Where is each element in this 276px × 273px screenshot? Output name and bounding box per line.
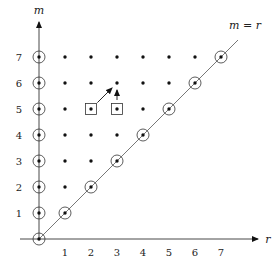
lattice-point [37,185,40,188]
lattice-point [37,107,40,110]
lattice-point [115,81,118,84]
y-axis-label: m [34,4,44,17]
lattice-point [37,159,40,162]
x-tick-label: 5 [166,247,172,258]
lattice-point [193,81,196,84]
lattice-point [115,107,118,110]
lattice-diagram: 12345671234567mrm = r [0,0,276,273]
lattice-point [167,55,170,58]
transition-arrow [97,88,112,103]
y-tick-label: 7 [16,52,22,63]
lattice-point [89,159,92,162]
lattice-point [37,133,40,136]
y-tick-label: 1 [16,208,22,219]
lattice-point [63,55,66,58]
lattice-point [193,55,196,58]
lattice-point [89,185,92,188]
lattice-point [115,133,118,136]
diagonal-label: m = r [229,19,262,32]
x-tick-label: 6 [192,247,198,258]
lattice-point [219,55,222,58]
lattice-point [115,55,118,58]
y-tick-label: 5 [16,104,22,115]
lattice-point [115,159,118,162]
lattice-point [37,237,40,240]
x-axis-label: r [265,233,271,246]
lattice-point [63,211,66,214]
lattice-point [89,81,92,84]
lattice-point [141,55,144,58]
x-tick-label: 7 [218,247,224,258]
lattice-point [89,133,92,136]
x-tick-label: 2 [88,247,94,258]
y-tick-label: 4 [16,130,22,141]
lattice-point [37,55,40,58]
lattice-point [37,211,40,214]
lattice-point [167,107,170,110]
y-tick-label: 6 [16,78,22,89]
y-tick-label: 2 [16,182,22,193]
lattice-point [63,185,66,188]
lattice-point [167,81,170,84]
lattice-point [89,55,92,58]
lattice-point [63,133,66,136]
lattice-point [63,107,66,110]
lattice-point [63,159,66,162]
y-tick-label: 3 [16,156,22,167]
x-tick-label: 1 [62,247,68,258]
x-tick-label: 3 [114,247,120,258]
x-tick-label: 4 [140,247,146,258]
lattice-point [37,81,40,84]
lattice-point [63,81,66,84]
lattice-point [141,81,144,84]
lattice-point [141,107,144,110]
lattice-point [89,107,92,110]
lattice-point [141,133,144,136]
